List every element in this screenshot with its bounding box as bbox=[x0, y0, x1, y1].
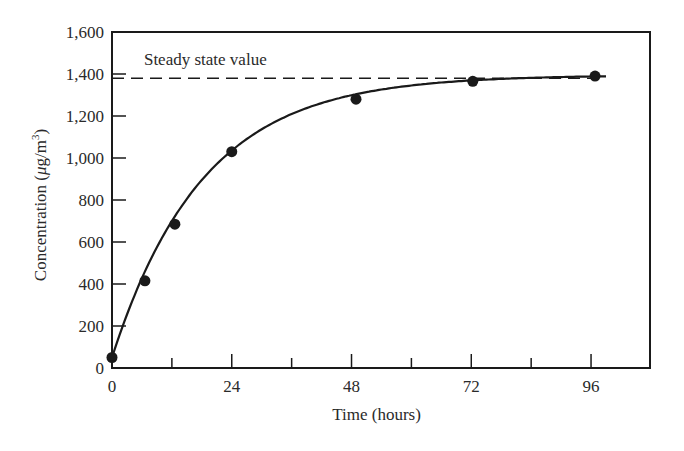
y-tick-label: 600 bbox=[79, 233, 105, 252]
y-axis-title-text: Concentration ( bbox=[31, 175, 50, 282]
y-axis-title-close: ) bbox=[31, 129, 50, 135]
data-point bbox=[226, 146, 237, 157]
data-point bbox=[590, 71, 601, 82]
y-tick-label: 1,600 bbox=[66, 23, 104, 42]
steady-state-label: Steady state value bbox=[144, 50, 267, 69]
y-tick-label: 800 bbox=[79, 191, 105, 210]
x-axis-ticks: 024487296 bbox=[108, 354, 600, 396]
data-point bbox=[139, 275, 150, 286]
y-tick-label: 400 bbox=[79, 275, 105, 294]
data-point bbox=[467, 76, 478, 87]
y-tick-label: 1,400 bbox=[66, 65, 104, 84]
data-point bbox=[169, 219, 180, 230]
plot-frame bbox=[112, 32, 650, 368]
y-axis-title: Concentration (μg/m3) bbox=[29, 129, 50, 281]
y-tick-label: 1,000 bbox=[66, 149, 104, 168]
concentration-curve bbox=[112, 76, 606, 357]
x-tick-label: 96 bbox=[583, 377, 600, 396]
x-tick-label: 0 bbox=[108, 377, 117, 396]
concentration-chart: 02004006008001,0001,2001,4001,600 024487… bbox=[0, 0, 684, 451]
y-tick-label: 0 bbox=[96, 359, 105, 378]
x-axis-title: Time (hours) bbox=[332, 405, 421, 424]
y-axis-title-unit: g/m bbox=[31, 140, 50, 166]
y-tick-label: 200 bbox=[79, 317, 105, 336]
x-tick-label: 24 bbox=[223, 377, 241, 396]
data-points bbox=[107, 71, 601, 363]
mu-symbol: μ bbox=[31, 166, 50, 176]
data-point bbox=[351, 94, 362, 105]
x-tick-label: 72 bbox=[463, 377, 480, 396]
y-tick-label: 1,200 bbox=[66, 107, 104, 126]
y-axis-ticks: 02004006008001,0001,2001,4001,600 bbox=[66, 23, 126, 378]
x-tick-label: 48 bbox=[343, 377, 360, 396]
